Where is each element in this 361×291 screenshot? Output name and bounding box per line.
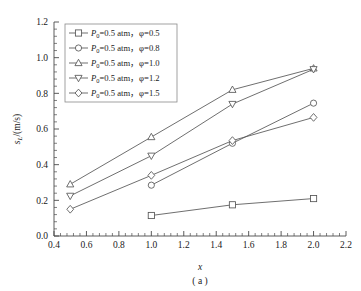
legend-label: P0=0.5 atm，φ=1.5 [90, 88, 160, 99]
legend-phi-value: =0.5 [144, 28, 160, 38]
legend-pressure: =0.5 atm， [99, 28, 139, 38]
y-tick-label: 1.0 [36, 53, 48, 63]
x-tick-label: 1.8 [275, 240, 287, 250]
series-4 [67, 114, 317, 214]
x-ticks: 0.40.60.81.01.21.41.61.82.02.2 [48, 231, 352, 250]
data-point-diamond [67, 205, 74, 213]
data-point-triangle-up [67, 181, 74, 187]
data-point-circle [148, 182, 154, 188]
legend-phi-value: =1.0 [144, 58, 160, 68]
chart-figure: 0.40.60.81.01.21.41.61.82.02.20.00.20.40… [0, 0, 361, 291]
x-tick-label: 1.0 [145, 240, 157, 250]
data-point-diamond [148, 171, 155, 179]
data-point-square [148, 212, 154, 218]
y-tick-label: 0.0 [36, 231, 48, 241]
x-tick-label: 2.0 [308, 240, 320, 250]
x-tick-label: 1.2 [178, 240, 190, 250]
legend-phi-value: =0.8 [144, 43, 160, 53]
legend-pressure: =0.5 atm， [99, 73, 139, 83]
legend-marker-square [75, 30, 81, 36]
data-point-circle [310, 100, 316, 106]
y-tick-label: 0.6 [36, 124, 48, 134]
data-point-square [310, 195, 316, 201]
legend: P0=0.5 atm，φ=0.5P0=0.5 atm，φ=0.8P0=0.5 a… [65, 24, 177, 102]
x-tick-label: 0.8 [113, 240, 125, 250]
x-axis-title: x [197, 262, 203, 272]
legend-phi-value: =1.5 [144, 88, 160, 98]
y-tick-label: 0.4 [36, 160, 48, 170]
y-axis-title: sL/(m/s) [12, 114, 24, 144]
series-0 [148, 195, 316, 218]
legend-label: P0=0.5 atm，φ=0.5 [90, 28, 160, 39]
y-axis-title-unit: /(m/s) [12, 114, 23, 137]
line-chart: 0.40.60.81.01.21.41.61.82.02.20.00.20.40… [0, 0, 361, 291]
legend-label: P0=0.5 atm，φ=1.2 [90, 73, 160, 84]
legend-pressure: =0.5 atm， [99, 58, 139, 68]
x-tick-label: 0.6 [81, 240, 93, 250]
y-tick-label: 0.2 [36, 196, 48, 206]
y-axis-title-text: sL/(m/s) [12, 114, 24, 144]
data-point-diamond [310, 114, 317, 122]
y-tick-label: 1.2 [36, 17, 48, 27]
x-tick-label: 1.4 [210, 240, 222, 250]
data-point-triangle-down [229, 101, 236, 107]
legend-phi-value: =1.2 [144, 73, 160, 83]
data-point-triangle-down [67, 193, 74, 199]
legend-label: P0=0.5 atm，φ=1.0 [90, 58, 160, 69]
data-point-square [229, 202, 235, 208]
x-tick-label: 0.4 [48, 240, 60, 250]
legend-marker-circle [75, 45, 81, 51]
legend-label: P0=0.5 atm，φ=0.8 [90, 43, 160, 54]
y-tick-label: 0.8 [36, 89, 48, 99]
figure-caption: ( a ) [192, 276, 207, 287]
legend-pressure: =0.5 atm， [99, 88, 139, 98]
data-point-triangle-up [148, 133, 155, 139]
x-tick-label: 1.6 [243, 240, 255, 250]
data-point-triangle-down [148, 153, 155, 159]
x-tick-label: 2.2 [340, 240, 352, 250]
legend-pressure: =0.5 atm， [99, 43, 139, 53]
y-ticks: 0.00.20.40.60.81.01.2 [36, 17, 59, 241]
